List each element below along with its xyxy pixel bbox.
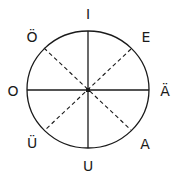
label-bottom-left: Ü — [27, 134, 37, 151]
label-bottom-right: A — [140, 136, 150, 152]
vowel-diagram: I E Ä A U Ü O Ö — [0, 0, 175, 181]
center-point — [86, 88, 90, 92]
label-left: O — [7, 83, 18, 99]
label-bottom: U — [83, 158, 93, 174]
label-right: Ä — [160, 82, 170, 99]
label-top-left: Ö — [26, 28, 37, 45]
label-top-right: E — [142, 29, 151, 45]
label-top: I — [86, 6, 90, 22]
